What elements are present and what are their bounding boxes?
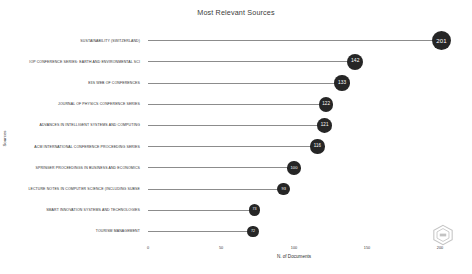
- stem-line: [148, 189, 278, 190]
- data-point-bubble[interactable]: 121: [317, 118, 332, 133]
- stem-line: [148, 167, 288, 168]
- data-point-bubble[interactable]: 133: [334, 75, 349, 90]
- y-axis-tick-label: SMART INNOVATION SYSTEMS AND TECHNOLOGIE…: [46, 208, 140, 212]
- data-point-bubble[interactable]: 72: [247, 226, 259, 238]
- y-axis-tick-label: E3S WEB OF CONFERENCES: [88, 81, 140, 85]
- data-point-bubble[interactable]: 201: [432, 31, 452, 51]
- data-point-bubble[interactable]: 93: [277, 183, 290, 196]
- stem-line: [148, 231, 248, 232]
- x-axis-tick-label: 150: [364, 246, 370, 250]
- x-axis-tick-label: 200: [437, 246, 443, 250]
- stem-line: [148, 40, 433, 41]
- x-axis-tick-label: 0: [147, 246, 149, 250]
- x-axis-tick-label: 50: [219, 246, 223, 250]
- y-axis-title: Sources: [2, 130, 7, 146]
- y-axis-tick-label: LECTURE NOTES IN COMPUTER SCIENCE (INCLU…: [28, 187, 140, 191]
- stem-line: [148, 125, 318, 126]
- y-axis-tick-label: IOP CONFERENCE SERIES: EARTH AND ENVIRON…: [29, 60, 140, 64]
- y-axis-tick-label: SPRINGER PROCEEDINGS IN BUSINESS AND ECO…: [35, 166, 140, 170]
- y-axis-tick-label: JOURNAL OF PHYSICS CONFERENCE SERIES: [58, 102, 140, 106]
- data-point-bubble[interactable]: 122: [319, 97, 334, 112]
- stem-line: [148, 61, 348, 62]
- y-axis-tick-label: SUSTAINABILITY (SWITZERLAND): [80, 39, 140, 43]
- y-axis-tick-label: ACM INTERNATIONAL CONFERENCE PROCEEDING …: [34, 145, 140, 149]
- x-axis-title: N. of Documents: [148, 254, 440, 259]
- x-axis: N. of Documents 050100150200: [148, 242, 440, 264]
- data-point-bubble[interactable]: 100: [287, 161, 300, 174]
- y-axis-tick-label: ADVANCES IN INTELLIGENT SYSTEMS AND COMP…: [39, 123, 140, 127]
- data-point-bubble[interactable]: 73: [249, 204, 261, 216]
- data-point-bubble[interactable]: 116: [310, 139, 324, 153]
- x-axis-tick-label: 100: [291, 246, 297, 250]
- chart-container: Most Relevant Sources SUSTAINABILITY (SW…: [0, 0, 472, 274]
- y-axis-labels: SUSTAINABILITY (SWITZERLAND)IOP CONFEREN…: [0, 30, 146, 242]
- logo-badge-icon: [432, 224, 454, 246]
- plot-area: 201142133122121116100937372: [148, 30, 440, 242]
- chart-title: Most Relevant Sources: [0, 8, 472, 17]
- stem-line: [148, 83, 335, 84]
- stem-line: [148, 146, 311, 147]
- y-axis-tick-label: TOURISM MANAGEMENT: [96, 229, 140, 233]
- data-point-bubble[interactable]: 142: [347, 54, 363, 70]
- stem-line: [148, 104, 320, 105]
- stem-line: [148, 210, 250, 211]
